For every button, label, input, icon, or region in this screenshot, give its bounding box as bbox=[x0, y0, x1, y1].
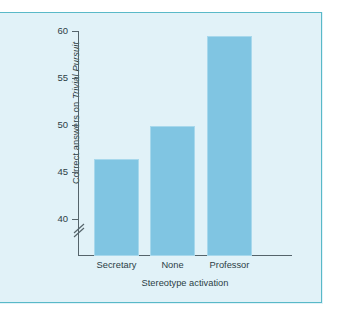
page-margin-bottom bbox=[0, 304, 343, 313]
y-axis-title-italic: Trivial Pursuit bbox=[71, 42, 81, 99]
x-axis-label-professor: Professor bbox=[197, 260, 262, 270]
axis-break-icon bbox=[71, 220, 87, 240]
plot-area: Correct answers on Trivial Pursuit 60 55… bbox=[28, 20, 300, 288]
figure-frame: Correct answers on Trivial Pursuit 60 55… bbox=[0, 0, 343, 313]
y-axis-tick-label-50: 50 bbox=[44, 120, 68, 130]
y-axis-title: Correct answers on Trivial Pursuit bbox=[71, 23, 81, 203]
bar-secretary bbox=[94, 159, 139, 256]
y-axis-tick-60 bbox=[72, 31, 78, 32]
page-margin-top bbox=[0, 0, 343, 12]
bar-none bbox=[150, 126, 195, 256]
page-margin-right bbox=[323, 0, 343, 313]
y-axis-tick-45 bbox=[72, 172, 78, 173]
y-axis-tick-55 bbox=[72, 78, 78, 79]
y-axis-tick-label-45: 45 bbox=[44, 167, 68, 177]
bar-professor bbox=[207, 36, 252, 256]
y-axis-tick-label-55: 55 bbox=[44, 73, 68, 83]
x-axis-label-none: None bbox=[140, 260, 205, 270]
y-axis-tick-label-60: 60 bbox=[44, 26, 68, 36]
y-axis-tick-label-40: 40 bbox=[44, 214, 68, 224]
y-axis-tick-50 bbox=[72, 125, 78, 126]
x-axis-title: Stereotype activation bbox=[78, 278, 292, 288]
